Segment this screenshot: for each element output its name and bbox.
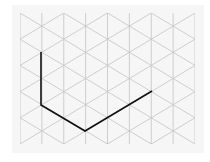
diagram-stage bbox=[0, 0, 210, 162]
isometric-grid-diagram bbox=[0, 0, 210, 162]
isometric-grid-lines bbox=[20, 0, 195, 162]
drawn-path bbox=[41, 52, 152, 131]
